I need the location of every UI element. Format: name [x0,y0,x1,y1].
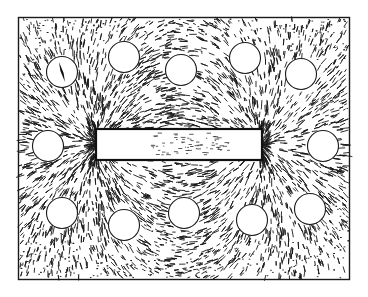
compass-circle [286,59,317,90]
compass [295,194,326,225]
magnetic-field-diagram: Iron filings pattern around a bar magnet… [0,0,368,297]
compass [33,131,64,162]
compass-circle [166,55,197,86]
compass [47,198,78,229]
compass [237,205,268,236]
diagram-canvas [0,0,368,297]
bar-magnet [96,129,262,160]
compass-circle [230,43,261,74]
compass-circle [237,205,268,236]
compass-circle [33,131,64,162]
compass [47,57,78,88]
compass-circle [308,131,339,162]
compass [286,59,317,90]
compass-circle [109,210,140,241]
compass [109,210,140,241]
compass-circle [109,42,140,73]
compass [166,55,197,86]
compass [109,42,140,73]
compass-circle [169,198,200,229]
magnet-body [96,129,262,160]
compass [308,131,339,162]
compass [169,198,200,229]
compass-circle [295,194,326,225]
compass-circle [47,198,78,229]
compass [230,43,261,74]
